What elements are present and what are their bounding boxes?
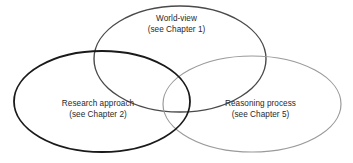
label-research-approach-title: Research approach bbox=[0, 99, 196, 110]
label-reasoning-process-subtitle: (see Chapter 5) bbox=[168, 110, 353, 121]
label-research-approach: Research approach (see Chapter 2) bbox=[0, 99, 196, 121]
venn-diagram: World-view (see Chapter 1) Research appr… bbox=[0, 0, 353, 163]
label-world-view: World-view (see Chapter 1) bbox=[0, 14, 353, 36]
label-world-view-subtitle: (see Chapter 1) bbox=[0, 25, 353, 36]
label-reasoning-process: Reasoning process (see Chapter 5) bbox=[168, 99, 353, 121]
label-reasoning-process-title: Reasoning process bbox=[168, 99, 353, 110]
label-research-approach-subtitle: (see Chapter 2) bbox=[0, 110, 196, 121]
label-world-view-title: World-view bbox=[0, 14, 353, 25]
